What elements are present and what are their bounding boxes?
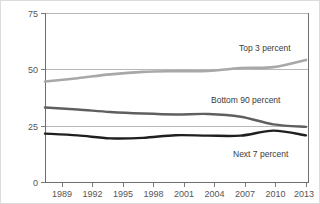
series-label-next-7-percent: Next 7 percent — [233, 149, 289, 159]
line-chart: 75 50 25 0 1989 1992 1995 1998 2001 2004… — [1, 1, 320, 204]
series-line-top-3-percent — [45, 60, 306, 82]
xtick-label-1995: 1995 — [113, 189, 133, 199]
chart-figure: 75 50 25 0 1989 1992 1995 1998 2001 2004… — [0, 0, 320, 204]
xtick-label-2007: 2007 — [235, 189, 255, 199]
series-line-bottom-90-percent — [45, 107, 306, 126]
x-tick-marks — [62, 183, 306, 188]
xtick-label-2010: 2010 — [265, 189, 285, 199]
xtick-label-2013: 2013 — [294, 189, 314, 199]
series-line-next-7-percent — [45, 131, 306, 139]
ytick-label-50: 50 — [28, 65, 38, 75]
series-annotations: Top 3 percent Bottom 90 percent Next 7 p… — [211, 43, 291, 159]
ytick-label-25: 25 — [28, 122, 38, 132]
xtick-label-1998: 1998 — [143, 189, 163, 199]
y-tick-labels: 75 50 25 0 — [28, 9, 38, 188]
y-tick-marks — [41, 14, 46, 183]
xtick-label-1992: 1992 — [82, 189, 102, 199]
series-label-top-3-percent: Top 3 percent — [239, 43, 291, 53]
ytick-label-0: 0 — [33, 178, 38, 188]
xtick-label-2001: 2001 — [174, 189, 194, 199]
xtick-label-1989: 1989 — [52, 189, 72, 199]
ytick-label-75: 75 — [28, 9, 38, 19]
x-tick-labels: 1989 1992 1995 1998 2001 2004 2007 2010 … — [52, 189, 314, 199]
xtick-label-2004: 2004 — [204, 189, 224, 199]
series-label-bottom-90-percent: Bottom 90 percent — [211, 95, 281, 105]
